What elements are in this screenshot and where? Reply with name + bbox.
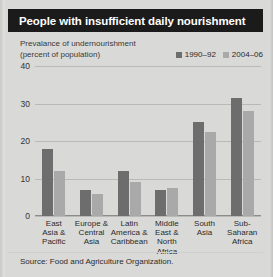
x-axis-label-line: America & [110, 228, 148, 237]
bar [205, 132, 216, 216]
x-axis-label: SouthAsia [186, 219, 224, 253]
y-axis-tick-label: 40 [21, 61, 30, 71]
y-axis-tick-label: 0 [25, 211, 30, 221]
x-axis-label-line: Africa [223, 237, 261, 246]
bar-group [76, 66, 107, 216]
page-title: People with insufficient daily nourishme… [8, 15, 245, 27]
x-axis-label-line: Latin [110, 219, 148, 228]
x-axis-label-line: Asia [73, 237, 111, 246]
bar [80, 190, 91, 216]
x-axis-label-line: Europe & [73, 219, 111, 228]
legend-item-1990-92: 1990–92 [176, 50, 216, 59]
bar-group [38, 66, 69, 216]
bar [92, 194, 103, 217]
bar [118, 171, 129, 216]
x-axis-label-line: Asia & [35, 228, 73, 237]
bar [193, 122, 204, 216]
bar-group [189, 66, 220, 216]
y-axis-tick-label: 10 [21, 174, 30, 184]
bar [42, 149, 53, 217]
legend-swatch-icon [223, 52, 229, 58]
page-right-edge [269, 0, 273, 277]
bar [243, 111, 254, 216]
source-note: Source: Food and Agriculture Organizatio… [20, 257, 173, 266]
bar [130, 182, 141, 216]
bar-group [227, 66, 258, 216]
x-axis-label-line: Asia [186, 228, 224, 237]
x-axis-label-line: Pacific [35, 237, 73, 246]
x-axis-label-line: Middle [148, 219, 186, 228]
x-axis-label-line: Central [73, 228, 111, 237]
x-axis-label-line: East & [148, 228, 186, 237]
axis-note: Prevalance of undernourishment (percent … [20, 39, 170, 60]
bar [54, 171, 65, 216]
y-axis-tick-label: 30 [21, 99, 30, 109]
legend: 1990–92 2004–06 [176, 50, 263, 59]
legend-swatch-icon [176, 52, 182, 58]
y-axis-tick-label: 20 [21, 136, 30, 146]
x-axis-label-line: East [35, 219, 73, 228]
x-axis-labels: EastAsia &PacificEurope &CentralAsiaLati… [35, 219, 261, 253]
x-axis-label-line: North [148, 237, 186, 246]
bar [231, 98, 242, 216]
x-axis-label-line: Saharan [223, 228, 261, 237]
legend-item-2004-06: 2004–06 [223, 50, 263, 59]
x-axis-label-line: Sub- [223, 219, 261, 228]
axis-note-line1: Prevalance of undernourishment [20, 39, 170, 50]
title-bar: People with insufficient daily nourishme… [8, 9, 263, 32]
x-axis-label-line: Caribbean [110, 237, 148, 246]
x-axis-label: Sub-SaharanAfrica [223, 219, 261, 253]
bar [155, 190, 166, 216]
legend-label: 2004–06 [232, 50, 263, 59]
x-axis-label: MiddleEast &NorthAfrica [148, 219, 186, 253]
axis-note-line2: (percent of population) [20, 50, 170, 61]
gridline: 0 [35, 216, 261, 217]
bar-groups [35, 66, 261, 216]
plot-area: 010203040 [35, 66, 261, 216]
bar [167, 188, 178, 216]
chart-card: People with insufficient daily nourishme… [0, 0, 273, 277]
divider [8, 252, 263, 253]
bar-group [114, 66, 145, 216]
bar-group [151, 66, 182, 216]
page-left-edge [0, 0, 5, 277]
x-axis-label-line: South [186, 219, 224, 228]
legend-label: 1990–92 [185, 50, 216, 59]
x-axis-label: LatinAmerica &Caribbean [110, 219, 148, 253]
x-axis-label: EastAsia &Pacific [35, 219, 73, 253]
x-axis-label: Europe &CentralAsia [73, 219, 111, 253]
